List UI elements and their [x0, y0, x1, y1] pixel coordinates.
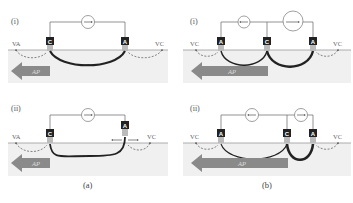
electrode-label: C [48, 131, 53, 137]
electrode-c: C [283, 129, 291, 143]
current-meter-large-icon [283, 11, 303, 31]
action-potential-label: AP [31, 160, 40, 167]
virtual-cathode-label-left: VC [190, 133, 199, 140]
panel-label: (ii) [11, 104, 21, 113]
action-potential-label: AP [237, 160, 246, 167]
electrode-a-left: A [217, 37, 225, 51]
electrode-a-right: A [309, 37, 317, 51]
electrode-label: A [311, 39, 316, 45]
electrode-label: A [123, 123, 128, 129]
caption-a: (a) [83, 180, 93, 190]
electrode-label: A [219, 39, 224, 45]
action-potential-label: AP [31, 68, 40, 75]
electrode-a: A [121, 121, 129, 136]
electrode-c: C [46, 129, 54, 143]
electrode-a-left: A [217, 129, 225, 143]
virtual-cathode-label-right: VC [333, 133, 342, 140]
virtual-cathode-label: VC [147, 133, 156, 140]
action-potential-label: AP [227, 68, 236, 75]
electrode-c: C [263, 37, 271, 51]
electrode-diagram: (i) C A VA VC AP (ii) [0, 0, 353, 203]
panel-a-ii: (ii) C A VA VC AP [8, 104, 168, 176]
electrode-label: A [123, 39, 128, 45]
panel-b-i: (i) A C A VC VC AP [183, 11, 351, 83]
virtual-cathode-label-left: VC [190, 40, 199, 47]
caption-b: (b) [262, 180, 272, 190]
panel-label: (i) [11, 17, 19, 26]
virtual-cathode-label-right: VC [333, 40, 342, 47]
virtual-cathode-label: VC [155, 40, 164, 47]
electrode-label: A [311, 131, 316, 137]
electrode-label: A [219, 131, 224, 137]
panel-a-i: (i) C A VA VC AP [8, 16, 168, 84]
electrode-a-right: A [309, 129, 317, 143]
panel-label: (i) [190, 17, 198, 26]
panel-b-ii: (ii) A C A VC VC AP [183, 104, 351, 176]
electrode-a: A [121, 37, 129, 51]
virtual-anode-label: VA [12, 133, 21, 140]
electrode-c: C [46, 37, 54, 51]
electrode-label: C [285, 131, 290, 137]
electrode-label: C [48, 39, 53, 45]
virtual-anode-label: VA [12, 40, 21, 47]
panel-label: (ii) [190, 104, 200, 113]
electrode-label: C [265, 39, 270, 45]
